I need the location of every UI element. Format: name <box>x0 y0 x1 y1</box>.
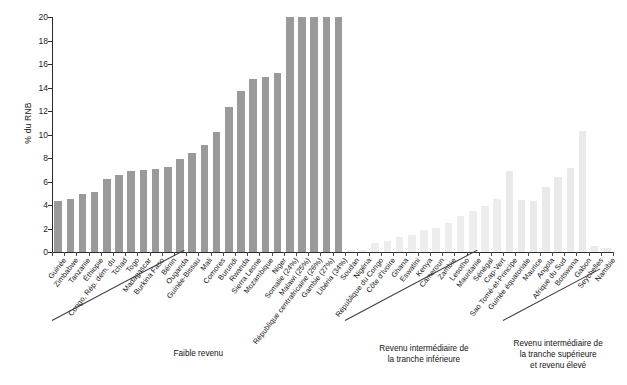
y-tick-mark <box>48 88 52 89</box>
y-tick-label: 0 <box>26 247 48 257</box>
y-tick-label: 18 <box>26 36 48 46</box>
y-tick-mark <box>48 158 52 159</box>
bar <box>518 200 526 252</box>
bar <box>432 228 440 252</box>
x-tick-mark <box>345 252 346 256</box>
bar <box>408 235 416 252</box>
bar <box>176 159 184 252</box>
bar <box>103 179 111 252</box>
group-label: Faible revenu <box>118 348 278 359</box>
y-tick-mark <box>48 41 52 42</box>
bar <box>542 187 550 252</box>
bar <box>591 246 599 252</box>
bar <box>298 17 306 252</box>
y-tick-mark <box>48 17 52 18</box>
x-tick-mark <box>601 252 602 256</box>
bar <box>152 169 160 252</box>
y-tick-mark <box>48 252 52 253</box>
y-tick-label: 6 <box>26 177 48 187</box>
y-tick-label: 14 <box>26 83 48 93</box>
bar <box>262 77 270 252</box>
bar <box>579 131 587 252</box>
bar <box>79 194 87 252</box>
bar <box>310 17 318 252</box>
x-tick-mark <box>125 252 126 256</box>
x-tick-mark <box>76 252 77 256</box>
bar <box>323 17 331 252</box>
bar <box>481 206 489 252</box>
x-tick-mark <box>369 252 370 256</box>
y-tick-mark <box>48 229 52 230</box>
bar <box>457 216 465 252</box>
bar <box>164 167 172 252</box>
y-tick-mark <box>48 64 52 65</box>
bar <box>493 199 501 252</box>
x-tick-mark <box>430 252 431 256</box>
bar <box>506 171 514 252</box>
bar <box>213 132 221 252</box>
x-tick-mark <box>589 252 590 256</box>
x-tick-mark <box>333 252 334 256</box>
x-tick-mark <box>137 252 138 256</box>
bar <box>359 250 367 252</box>
x-tick-mark <box>418 252 419 256</box>
x-tick-mark <box>150 252 151 256</box>
y-tick-label: 10 <box>26 130 48 140</box>
y-tick-label: 20 <box>26 12 48 22</box>
bar <box>603 248 611 252</box>
x-tick-mark <box>393 252 394 256</box>
x-tick-mark <box>491 252 492 256</box>
x-tick-mark <box>296 252 297 256</box>
group-label: Revenu intermédiaire de la tranche supér… <box>478 338 627 371</box>
x-tick-mark <box>552 252 553 256</box>
x-tick-mark <box>162 252 163 256</box>
y-tick-label: 4 <box>26 200 48 210</box>
plot-area <box>52 17 613 252</box>
bar <box>445 223 453 252</box>
x-tick-mark <box>64 252 65 256</box>
bar <box>67 199 75 252</box>
bar <box>554 177 562 252</box>
bar <box>249 79 257 252</box>
bar <box>347 250 355 252</box>
x-tick-mark <box>272 252 273 256</box>
y-tick-mark <box>48 111 52 112</box>
bar <box>420 230 428 252</box>
x-tick-mark <box>211 252 212 256</box>
bar <box>286 17 294 252</box>
bar <box>140 170 148 252</box>
x-tick-mark <box>503 252 504 256</box>
x-tick-mark <box>235 252 236 256</box>
y-tick-mark <box>48 182 52 183</box>
x-tick-mark <box>308 252 309 256</box>
bar <box>384 241 392 252</box>
x-tick-mark <box>564 252 565 256</box>
x-tick-mark <box>528 252 529 256</box>
x-tick-mark <box>613 252 614 256</box>
chart-figure: % du RNB 02468101214161820 GuinéeZimbabw… <box>0 0 627 385</box>
x-tick-mark <box>113 252 114 256</box>
x-tick-mark <box>101 252 102 256</box>
x-tick-mark <box>479 252 480 256</box>
bar <box>371 243 379 252</box>
x-tick-mark <box>89 252 90 256</box>
bar <box>54 201 62 252</box>
bar <box>274 73 282 252</box>
x-tick-mark <box>186 252 187 256</box>
x-axis-ticks <box>52 252 613 257</box>
y-tick-label: 16 <box>26 59 48 69</box>
x-tick-mark <box>223 252 224 256</box>
bar <box>567 168 575 252</box>
x-tick-mark <box>454 252 455 256</box>
bar <box>530 201 538 252</box>
x-tick-mark <box>406 252 407 256</box>
bar <box>91 192 99 252</box>
x-tick-mark <box>320 252 321 256</box>
bar <box>237 91 245 252</box>
y-tick-label: 12 <box>26 106 48 116</box>
y-tick-label: 2 <box>26 224 48 234</box>
y-tick-label: 8 <box>26 153 48 163</box>
x-tick-mark <box>442 252 443 256</box>
x-tick-mark <box>381 252 382 256</box>
bar <box>225 107 233 252</box>
